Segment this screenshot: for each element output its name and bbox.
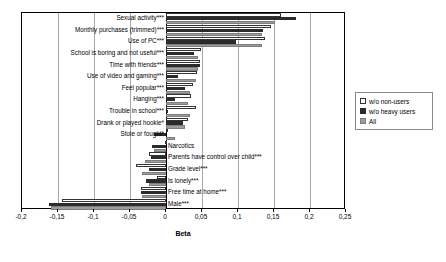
- bar-1: [166, 29, 263, 32]
- bar-0: [166, 118, 188, 121]
- axis-tick: [201, 209, 202, 212]
- gray-square-swatch: [360, 118, 366, 124]
- legend-item[interactable]: w/o heavy users: [360, 106, 428, 116]
- axis-tick-label: 0,2: [304, 213, 313, 220]
- bar-1: [151, 156, 166, 159]
- bar-1: [166, 121, 183, 124]
- bar-1: [152, 145, 166, 148]
- axis-tick: [345, 209, 346, 212]
- bar-0: [166, 48, 201, 51]
- legend-item[interactable]: All: [360, 116, 428, 126]
- axis-tick: [237, 209, 238, 212]
- category-label: Trouble in school***: [0, 107, 164, 114]
- bar-1: [166, 110, 168, 113]
- bar-0: [166, 13, 281, 16]
- chart-legend: w/o non-users w/o heavy users All: [355, 92, 433, 130]
- bar-0: [166, 25, 271, 28]
- bar-0: [149, 152, 166, 155]
- axis-tick-label: 0,05: [195, 213, 208, 220]
- category-label: Grade level***: [168, 165, 208, 172]
- bar-0: [166, 60, 200, 63]
- bar-1: [141, 191, 166, 194]
- legend-label: w/o non-users: [369, 98, 409, 105]
- bar-1: [166, 98, 175, 101]
- bar-1: [166, 64, 200, 67]
- category-label: Hanging***: [0, 95, 164, 102]
- category-label: Time with friends***: [0, 61, 164, 68]
- axis-tick: [273, 209, 274, 212]
- bar-0: [166, 129, 168, 132]
- bar-0: [166, 83, 193, 86]
- bar-1: [166, 87, 185, 90]
- bar-0: [166, 106, 196, 109]
- axis-tick-label: -0,2: [15, 213, 26, 220]
- bar-0: [166, 37, 265, 40]
- category-label: Monthly purchases (trimmed)***: [0, 26, 164, 33]
- category-label: Stole or fought*: [0, 130, 164, 137]
- category-label: Male***: [168, 200, 189, 207]
- x-axis-title: Beta: [21, 230, 345, 237]
- axis-tick-label: -0,05: [122, 213, 137, 220]
- category-label: Feel popular***: [0, 84, 164, 91]
- axis-tick: [165, 209, 166, 212]
- bar-1: [166, 40, 236, 43]
- white-square-swatch: [360, 98, 366, 104]
- bar-1: [166, 75, 178, 78]
- axis-tick: [93, 209, 94, 212]
- axis-tick-label: 0: [163, 213, 167, 220]
- bar-1: [166, 52, 194, 55]
- bar-1: [149, 168, 166, 171]
- category-label: Use of video and gaming***: [0, 72, 164, 79]
- bar-0: [136, 164, 166, 167]
- category-label: Drank or played hookie*: [0, 119, 164, 126]
- axis-tick-label: 0,25: [339, 213, 352, 220]
- bar-1: [166, 17, 296, 20]
- category-label: Parents have control over child***: [168, 153, 262, 160]
- legend-item[interactable]: w/o non-users: [360, 96, 428, 106]
- bar-1: [146, 179, 166, 182]
- chart-container: Sexual activity***Monthly purchases (tri…: [0, 0, 446, 262]
- axis-tick: [129, 209, 130, 212]
- bar-0: [166, 94, 191, 97]
- bar-0: [141, 187, 166, 190]
- axis-tick-label: -0,15: [50, 213, 65, 220]
- axis-tick: [309, 209, 310, 212]
- bar-0: [165, 141, 167, 144]
- axis-tick-label: 0,15: [267, 213, 280, 220]
- category-label: Use of PC***: [0, 37, 164, 44]
- axis-tick: [57, 209, 58, 212]
- category-label: Sexual activity***: [0, 14, 164, 21]
- category-label: School is boring and not useful***: [0, 49, 164, 56]
- bar-0: [157, 176, 166, 179]
- bar-0: [62, 199, 166, 202]
- top-margin-band: [0, 0, 446, 6]
- black-square-swatch: [360, 108, 366, 114]
- legend-label: w/o heavy users: [369, 108, 415, 115]
- x-axis: -0,2-0,15-0,1-0,0500,050,10,150,20,25: [21, 209, 345, 229]
- axis-tick-label: 0,1: [232, 213, 241, 220]
- category-label: Free time at home***: [168, 188, 226, 195]
- category-label: Is lonely***: [168, 177, 198, 184]
- axis-tick-label: -0,1: [87, 213, 98, 220]
- bar-1: [49, 203, 166, 206]
- category-label: Narcotics: [168, 142, 194, 149]
- legend-label: All: [369, 118, 376, 125]
- bar-0: [166, 71, 197, 74]
- axis-tick: [21, 209, 22, 212]
